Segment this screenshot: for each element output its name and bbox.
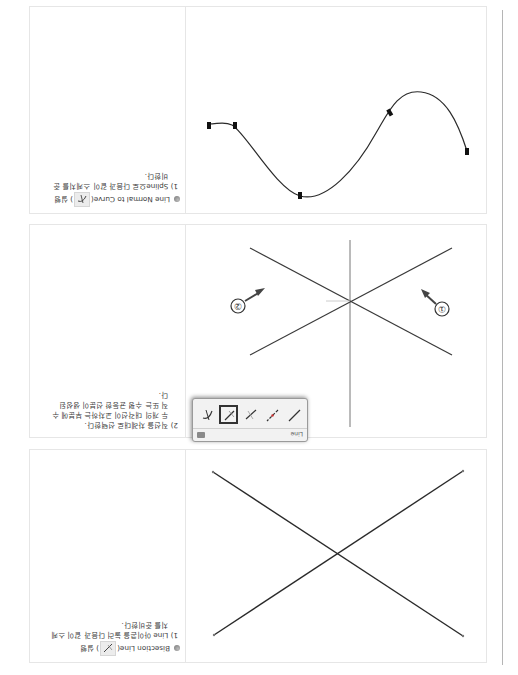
centerline-tool-button[interactable] [262,405,281,424]
line-tool-button[interactable] [284,405,303,424]
bisection-line-icon [100,641,116,656]
bullet-icon [174,646,180,652]
step-2: 2) 직선을 차례대로 선택한다. 두 개의 대각선이 교차하는 부분에 수 직… [32,390,180,430]
line-normal-to-curve-icon [74,192,90,207]
page-margin-rule [502,10,503,665]
line-toolbar: Line [192,398,308,442]
normal-line-tool-button[interactable] [197,405,216,424]
angle-bisector-tool-button[interactable] [241,405,260,424]
step-text: 2) 직선을 차례대로 선택한다. 두 개의 대각선이 교차하는 부분에 수 직… [32,390,180,431]
panel-bisection-line-step2: ① ② Line [29,224,487,438]
bisection-line-tool-button[interactable] [219,405,238,424]
spline-diagram [186,7,486,213]
svg-text:①: ① [438,304,446,314]
line-icon [287,408,302,423]
figure-crossing-lines [185,450,486,662]
panel-line-normal-to-curve-step1: Line Normal to Curve( ) 실행 1) Spline으로 다… [29,6,487,214]
crossing-lines-diagram [186,450,486,662]
document-page: Bisection Line( ) 실행 1) Line 아이콘을 눌러 다음과… [0,0,518,675]
panel-bisection-line-step1: Bisection Line( ) 실행 1) Line 아이콘을 눌러 다음과… [29,449,487,663]
step-text: Bisection Line( ) 실행 1) Line 아이콘을 눌러 다음과… [32,620,180,656]
step-1: 1) Spline으로 다음과 같이 스케치를 준 비한다. [32,171,180,191]
step-1: 1) Line 아이콘을 눌러 다음과 같이 스케 치를 준비한다. [32,620,180,640]
callout-2: ② [231,288,265,313]
bisection-line-icon [223,409,236,422]
angle-line-icon [243,408,258,423]
section-heading: Bisection Line( ) 실행 [32,641,180,656]
figure-spline [185,7,486,213]
toolbar-close-icon[interactable] [197,432,205,438]
step-text: Line Normal to Curve( ) 실행 1) Spline으로 다… [32,171,180,207]
line-normal-to-curve-icon [200,408,215,423]
bullet-icon [174,197,180,203]
section-heading: Line Normal to Curve( ) 실행 [32,192,180,207]
centerline-icon [265,408,280,423]
toolbar-header: Line [193,428,307,441]
callout-1: ① [421,289,449,316]
svg-text:②: ② [234,301,242,311]
toolbar-tools [193,401,307,428]
figure-bisection-result: ① ② Line [185,225,486,437]
